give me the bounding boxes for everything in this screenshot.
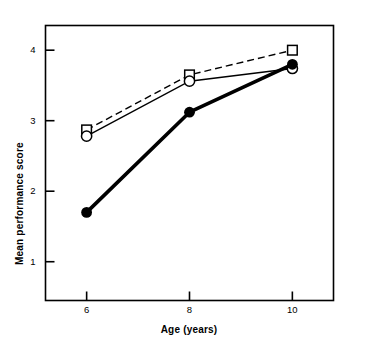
x-tick-label: 8 [178, 304, 202, 315]
y-axis-title: Mean performance score [14, 142, 25, 265]
series-2-marker [184, 76, 194, 86]
y-tick-label: 3 [26, 115, 40, 126]
x-tick-label: 10 [280, 304, 304, 315]
line-chart-plot [0, 0, 368, 345]
y-tick-label: 2 [26, 185, 40, 196]
series-1-marker [288, 45, 298, 55]
x-tick-label: 6 [75, 304, 99, 315]
series-3-marker [81, 207, 92, 218]
series-3-marker [184, 107, 195, 118]
x-axis-ticks [87, 292, 293, 301]
series-1-line [87, 50, 293, 130]
x-axis-title: Age (years) [129, 324, 249, 335]
series-3-marker [287, 59, 298, 70]
series-2-marker [82, 131, 92, 141]
y-tick-label: 1 [26, 256, 40, 267]
chart-figure: 4 3 2 1 6 8 10 Mean performance score Ag… [0, 0, 368, 345]
y-tick-label: 4 [26, 44, 40, 55]
y-axis-ticks [46, 50, 55, 262]
